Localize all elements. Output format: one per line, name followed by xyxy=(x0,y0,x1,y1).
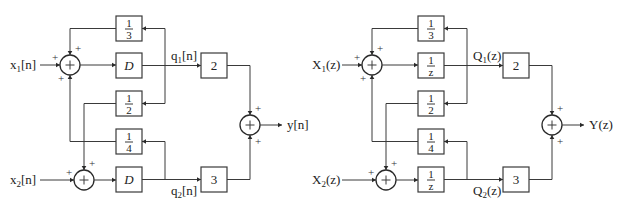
delay-2-box: D xyxy=(116,167,142,192)
input-1-label: X1(z) xyxy=(312,57,340,74)
plus-sign: + xyxy=(557,135,563,147)
state-1-label: Q1(z) xyxy=(473,48,501,65)
numerator: 1 xyxy=(428,168,434,180)
summer-2 xyxy=(74,170,94,190)
plus-sign: + xyxy=(66,166,72,178)
gain-one-third-box: 13 xyxy=(116,16,142,41)
signal-line xyxy=(142,29,165,66)
denominator: 4 xyxy=(428,142,434,154)
output-label: Y(z) xyxy=(589,117,613,132)
plus-sign: + xyxy=(255,102,261,114)
denominator: 4 xyxy=(126,142,132,154)
arrowhead xyxy=(580,123,584,128)
output-summer xyxy=(240,115,260,135)
denominator: z xyxy=(429,66,434,78)
arrowhead xyxy=(414,63,418,68)
state-2-label: Q2(z) xyxy=(473,183,501,200)
arrowhead xyxy=(142,26,146,31)
numerator: 1 xyxy=(428,17,434,29)
arrowhead xyxy=(142,101,146,106)
delay-2-box: 1z xyxy=(418,167,444,192)
arrowhead xyxy=(278,123,282,128)
signal-line xyxy=(529,66,552,116)
plus-sign: + xyxy=(75,42,81,54)
plus-sign: + xyxy=(52,51,58,63)
output-gain-2-box: 3 xyxy=(503,167,529,192)
diagram-time-domain: x1[n]+++Dq1[n]131214x2[n]++Dq2[n]23++y[n… xyxy=(10,16,309,200)
input-2-label: x2[n] xyxy=(10,172,36,189)
gain-one-quarter-box: 14 xyxy=(116,129,142,154)
gain-one-third-box: 13 xyxy=(418,16,444,41)
output-label: y[n] xyxy=(287,117,309,132)
plus-sign: + xyxy=(255,135,261,147)
arrowhead xyxy=(499,63,503,68)
signal-line xyxy=(444,142,467,180)
plus-sign: + xyxy=(58,72,64,84)
signal-line xyxy=(227,135,250,180)
numerator: 1 xyxy=(126,92,132,104)
output-gain-2-box: 3 xyxy=(201,167,227,192)
plus-sign: + xyxy=(391,157,397,169)
gain-one-quarter-box: 14 xyxy=(418,129,444,154)
arrowhead xyxy=(499,177,503,182)
signal-line xyxy=(372,75,418,142)
signal-line xyxy=(444,29,467,66)
arrowhead xyxy=(414,178,418,183)
input-1-label: x1[n] xyxy=(10,57,36,74)
arrowhead xyxy=(370,75,375,79)
gain-value: D xyxy=(123,58,134,73)
diagram-z-domain: X1(z)+++1zQ1(z)131214X2(z)++1zQ2(z)23++Y… xyxy=(312,16,613,200)
plus-sign: + xyxy=(368,166,374,178)
signal-line xyxy=(70,75,116,142)
numerator: 1 xyxy=(126,17,132,29)
arrowhead xyxy=(142,139,146,144)
plus-sign: + xyxy=(557,102,563,114)
denominator: 2 xyxy=(428,104,434,116)
arrowhead xyxy=(370,51,375,55)
denominator: z xyxy=(429,180,434,192)
input-2-label: X2(z) xyxy=(312,172,340,189)
signal-line xyxy=(227,66,250,116)
arrowhead xyxy=(68,51,73,55)
arrowhead xyxy=(197,63,201,68)
signal-line xyxy=(142,142,165,180)
plus-sign: + xyxy=(89,157,95,169)
state-1-label: q1[n] xyxy=(171,48,197,65)
numerator: 1 xyxy=(428,92,434,104)
block-diagrams: x1[n]+++Dq1[n]131214x2[n]++Dq2[n]23++y[n… xyxy=(0,0,621,206)
arrowhead xyxy=(444,101,448,106)
gain-one-half-box: 12 xyxy=(418,91,444,116)
denominator: 3 xyxy=(126,29,132,41)
denominator: 2 xyxy=(126,104,132,116)
output-summer xyxy=(542,115,562,135)
summer-2 xyxy=(376,170,396,190)
gain-one-half-box: 12 xyxy=(116,91,142,116)
output-gain-1-box: 2 xyxy=(503,53,529,78)
gain-value: 3 xyxy=(513,172,520,187)
numerator: 1 xyxy=(428,54,434,66)
arrowhead xyxy=(444,26,448,31)
gain-value: 2 xyxy=(513,58,520,73)
arrowhead xyxy=(68,75,73,79)
gain-value: D xyxy=(123,172,134,187)
signal-line xyxy=(142,66,165,104)
gain-value: 3 xyxy=(211,172,218,187)
plus-sign: + xyxy=(354,51,360,63)
state-2-label: q2[n] xyxy=(171,183,197,200)
arrowhead xyxy=(444,139,448,144)
numerator: 1 xyxy=(126,130,132,142)
signal-line xyxy=(444,66,467,104)
delay-1-box: 1z xyxy=(418,53,444,78)
signal-line xyxy=(529,135,552,180)
output-gain-1-box: 2 xyxy=(201,53,227,78)
numerator: 1 xyxy=(428,130,434,142)
delay-1-box: D xyxy=(116,53,142,78)
denominator: 3 xyxy=(428,29,434,41)
arrowhead xyxy=(197,177,201,182)
plus-sign: + xyxy=(377,42,383,54)
gain-value: 2 xyxy=(211,58,218,73)
plus-sign: + xyxy=(360,72,366,84)
